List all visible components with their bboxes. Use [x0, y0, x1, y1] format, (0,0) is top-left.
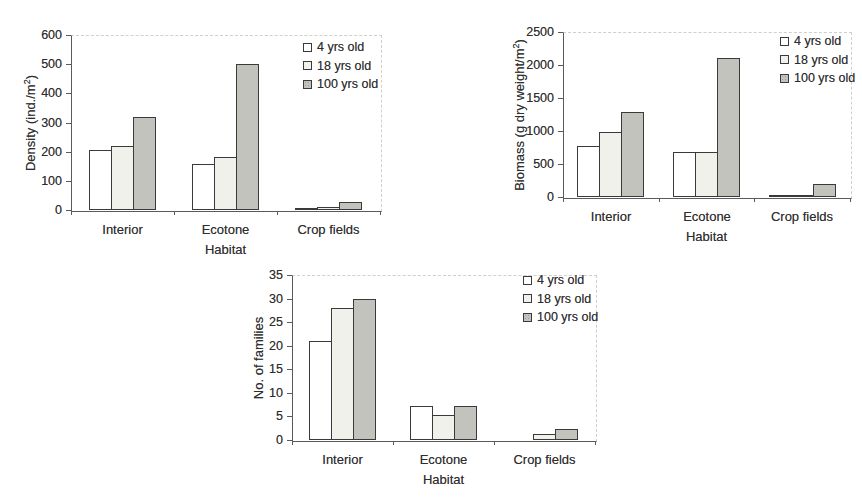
- y-tick-label: 30: [239, 292, 283, 306]
- y-tick-mark: [287, 322, 292, 323]
- bar-crop-fields-4-yrs-old: [295, 208, 318, 210]
- legend-item-18-yrs-old: 18 yrs old: [523, 292, 598, 306]
- legend-swatch-icon: [523, 276, 532, 285]
- category-label-interior: Interior: [71, 222, 174, 237]
- bar-interior-100-yrs-old: [353, 299, 376, 440]
- bar-ecotone-18-yrs-old: [695, 152, 718, 197]
- y-tick-label: 0: [239, 433, 283, 447]
- y-tick-mark: [287, 369, 292, 370]
- y-tick-label: 100: [18, 174, 62, 188]
- x-tick-mark: [494, 441, 495, 445]
- bar-ecotone-18-yrs-old: [432, 415, 455, 440]
- bar-interior-18-yrs-old: [111, 146, 134, 210]
- legend-swatch-icon: [780, 55, 789, 64]
- y-axis-title-text: ): [512, 39, 527, 43]
- legend-item-18-yrs-old: 18 yrs old: [303, 59, 378, 73]
- x-tick-mark: [71, 211, 72, 215]
- bar-interior-4-yrs-old: [309, 341, 332, 440]
- legend-item-100-yrs-old: 100 yrs old: [303, 77, 378, 91]
- bar-interior-100-yrs-old: [621, 112, 644, 197]
- y-tick-mark: [287, 299, 292, 300]
- bar-interior-4-yrs-old: [89, 150, 112, 210]
- legend-swatch-icon: [303, 43, 312, 52]
- y-axis-title-text: No. of families: [251, 316, 266, 398]
- legend-label: 4 yrs old: [794, 34, 841, 48]
- bar-crop-fields-4-yrs-old: [769, 195, 792, 197]
- y-axis-title: Biomass (g dry weight/m2): [511, 39, 527, 191]
- y-tick-mark: [66, 64, 71, 65]
- legend-label: 4 yrs old: [537, 273, 584, 287]
- y-axis-title: No. of families: [251, 316, 266, 398]
- bar-ecotone-100-yrs-old: [454, 406, 477, 440]
- legend-item-100-yrs-old: 100 yrs old: [523, 310, 598, 324]
- bar-ecotone-100-yrs-old: [236, 64, 259, 210]
- bar-ecotone-18-yrs-old: [214, 157, 237, 210]
- bar-crop-fields-18-yrs-old: [791, 195, 814, 197]
- legend-item-4-yrs-old: 4 yrs old: [780, 34, 855, 48]
- x-axis-title: Habitat: [71, 242, 380, 257]
- legend-swatch-icon: [523, 294, 532, 303]
- y-tick-mark: [558, 164, 563, 165]
- y-tick-mark: [287, 416, 292, 417]
- category-label-crop-fields: Crop fields: [754, 209, 850, 224]
- bar-interior-18-yrs-old: [599, 132, 622, 197]
- legend-label: 100 yrs old: [537, 310, 598, 324]
- x-tick-mark: [393, 441, 394, 445]
- y-axis-title: Density (ind./m2): [22, 74, 38, 170]
- category-label-ecotone: Ecotone: [174, 222, 277, 237]
- legend-swatch-icon: [303, 80, 312, 89]
- families-legend: 4 yrs old18 yrs old100 yrs old: [523, 273, 598, 329]
- y-tick-mark: [66, 123, 71, 124]
- legend-label: 4 yrs old: [317, 40, 364, 54]
- x-tick-mark: [380, 211, 381, 215]
- legend-label: 100 yrs old: [317, 77, 378, 91]
- y-tick-label: 500: [18, 57, 62, 71]
- legend-item-4-yrs-old: 4 yrs old: [523, 273, 598, 287]
- category-label-ecotone: Ecotone: [393, 452, 494, 467]
- y-tick-mark: [558, 65, 563, 66]
- bar-interior-18-yrs-old: [331, 308, 354, 440]
- figure-canvas: 0100200300400500600InteriorEcotoneCrop f…: [0, 0, 862, 504]
- legend-label: 18 yrs old: [794, 53, 848, 67]
- x-tick-mark: [595, 441, 596, 445]
- y-tick-label: 0: [18, 203, 62, 217]
- legend-swatch-icon: [780, 37, 789, 46]
- y-tick-mark: [66, 181, 71, 182]
- x-tick-mark: [754, 198, 755, 202]
- y-tick-mark: [558, 131, 563, 132]
- biomass-legend: 4 yrs old18 yrs old100 yrs old: [780, 34, 855, 90]
- legend-label: 18 yrs old: [537, 292, 591, 306]
- bar-ecotone-100-yrs-old: [717, 58, 740, 197]
- y-tick-label: 0: [510, 190, 554, 204]
- y-axis-title-text: Density (ind./m: [23, 84, 38, 171]
- y-tick-label: 5: [239, 409, 283, 423]
- y-tick-mark: [287, 393, 292, 394]
- legend-swatch-icon: [523, 313, 532, 322]
- bar-interior-100-yrs-old: [133, 117, 156, 210]
- density-legend: 4 yrs old18 yrs old100 yrs old: [303, 40, 378, 96]
- y-tick-mark: [558, 98, 563, 99]
- y-axis-title-text: Biomass (g dry weight/m: [512, 48, 527, 190]
- x-tick-mark: [563, 198, 564, 202]
- bar-ecotone-4-yrs-old: [192, 164, 215, 210]
- bar-crop-fields-100-yrs-old: [555, 429, 578, 440]
- category-label-interior: Interior: [563, 209, 659, 224]
- legend-item-4-yrs-old: 4 yrs old: [303, 40, 378, 54]
- y-axis-title-text: ): [23, 74, 38, 78]
- y-tick-mark: [66, 35, 71, 36]
- x-axis-title: Habitat: [292, 472, 595, 487]
- y-tick-mark: [66, 93, 71, 94]
- category-label-interior: Interior: [292, 452, 393, 467]
- y-tick-mark: [558, 32, 563, 33]
- y-tick-mark: [287, 275, 292, 276]
- x-tick-mark: [659, 198, 660, 202]
- y-tick-mark: [66, 152, 71, 153]
- x-tick-mark: [850, 198, 851, 202]
- y-tick-label: 2500: [510, 25, 554, 39]
- category-label-crop-fields: Crop fields: [494, 452, 595, 467]
- bar-ecotone-4-yrs-old: [410, 406, 433, 440]
- bar-crop-fields-18-yrs-old: [317, 207, 340, 210]
- bar-crop-fields-100-yrs-old: [339, 202, 362, 210]
- x-tick-mark: [174, 211, 175, 215]
- bar-crop-fields-100-yrs-old: [813, 184, 836, 197]
